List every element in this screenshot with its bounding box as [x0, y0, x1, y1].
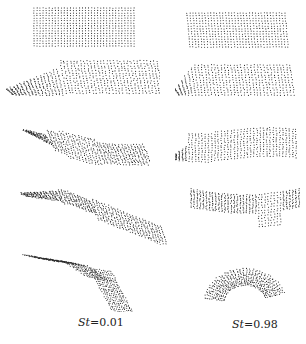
sheet-left-t5: [20, 252, 165, 312]
sheet-left-t2: [5, 55, 160, 105]
sheet-right-t5: [200, 258, 300, 313]
column-label-left: St=0.01: [78, 316, 124, 329]
sheet-right-t4: [188, 185, 303, 235]
sheet-left-t4: [18, 180, 168, 245]
sheet-left-t3: [20, 112, 150, 177]
sheet-left-t1: [30, 5, 140, 50]
sheet-right-t3: [172, 118, 302, 173]
sheet-right-t2: [175, 57, 300, 102]
column-label-right: St=0.98: [232, 318, 278, 331]
sheet-right-t1: [185, 10, 295, 50]
